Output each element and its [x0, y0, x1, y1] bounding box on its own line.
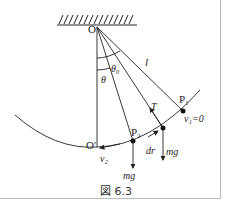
label-mg-p: mg: [166, 146, 178, 157]
theta-arc: [97, 68, 110, 70]
swing-arc: [15, 90, 200, 147]
label-dr: dr: [146, 145, 155, 156]
label-v1: v₁=0: [184, 113, 204, 124]
label-v2: v₂: [100, 153, 108, 164]
label-mg-p2: mg: [123, 170, 135, 181]
label-p1: P₁: [179, 93, 189, 105]
label-p2: P₂: [131, 126, 141, 138]
label-length: l: [145, 56, 148, 68]
label-theta: θ: [101, 74, 106, 85]
label-tension: T: [151, 101, 158, 112]
label-theta0: θ₀: [111, 63, 120, 74]
label-o-prime: O': [86, 139, 96, 151]
figure-caption: 図 6.3: [100, 185, 132, 198]
label-o: O: [88, 23, 96, 35]
v2-vector: [100, 144, 120, 148]
pendulum-diagram: O O' l θ₀ θ T P₁ P₂ v₁=0 v₂ dr mg mg 図 6…: [0, 0, 231, 214]
ceiling: [57, 15, 137, 25]
